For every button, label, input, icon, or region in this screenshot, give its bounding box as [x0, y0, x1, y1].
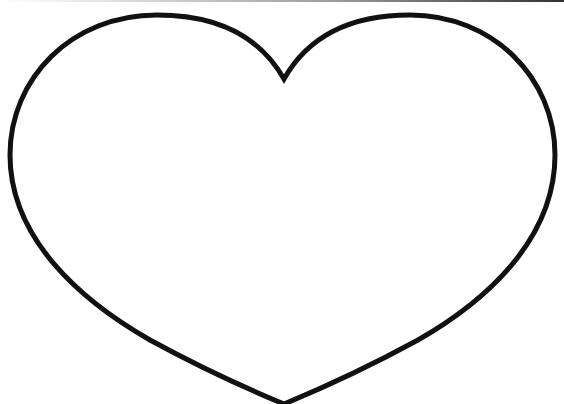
- heart-outline-icon: [10, 15, 555, 404]
- heart-canvas: [0, 0, 564, 404]
